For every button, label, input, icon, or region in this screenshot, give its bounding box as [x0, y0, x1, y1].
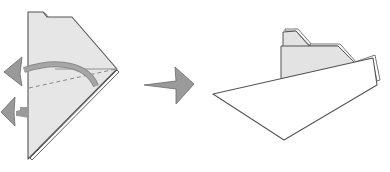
- step-1-paper: [28, 12, 119, 160]
- arrow-right-icon: [144, 67, 194, 104]
- origami-diagram: [0, 0, 390, 172]
- straight-arrow-left-icon: [1, 97, 28, 126]
- step-2-boat: [213, 29, 380, 140]
